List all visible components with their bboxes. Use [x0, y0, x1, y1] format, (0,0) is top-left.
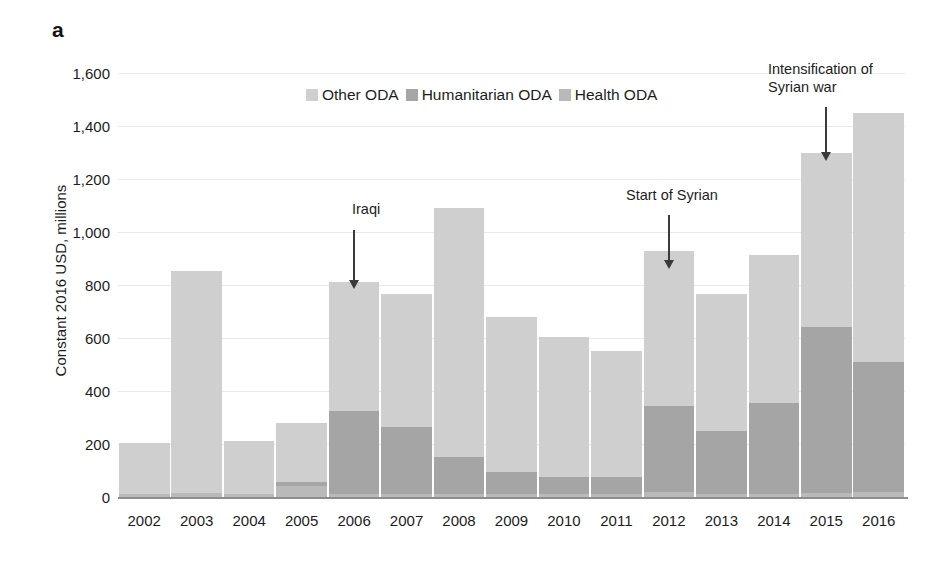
bar-segment-humanitarian-oda [749, 403, 800, 494]
annotation-label-2012: Start of Syrian [626, 186, 718, 204]
bar-2016[interactable] [853, 113, 904, 497]
x-axis-tick-label: 2004 [223, 512, 275, 529]
bar-segment-other-oda [644, 251, 695, 406]
bar-segment-humanitarian-oda [591, 477, 642, 494]
x-axis-tick-label: 2010 [538, 512, 590, 529]
bar-2003[interactable] [171, 271, 222, 497]
bar-segment-other-oda [696, 294, 747, 430]
y-axis-tick-label: 1,000 [40, 224, 110, 241]
legend-item-other-oda[interactable]: Other ODA [306, 86, 399, 104]
chart-legend: Other ODAHumanitarian ODAHealth ODA [306, 86, 657, 104]
y-axis-tick-label: 200 [40, 436, 110, 453]
bar-segment-other-oda [119, 443, 170, 494]
bar-segment-humanitarian-oda [853, 362, 904, 492]
chart-figure: a Constant 2016 USD, millions 1,6001,400… [0, 0, 933, 563]
gridline [118, 232, 905, 233]
bar-2010[interactable] [539, 337, 590, 497]
x-axis-tick-label: 2009 [485, 512, 537, 529]
bar-segment-humanitarian-oda [696, 431, 747, 495]
bar-2004[interactable] [224, 441, 275, 497]
annotation-arrow-shaft-2015 [825, 107, 827, 152]
y-axis-ticks: 1,6001,4001,2001,0008006004002000 [32, 0, 110, 563]
bar-segment-other-oda [539, 337, 590, 477]
bar-segment-other-oda [749, 255, 800, 403]
legend-item-humanitarian-oda[interactable]: Humanitarian ODA [406, 86, 552, 104]
x-axis-tick-label: 2015 [800, 512, 852, 529]
legend-label: Health ODA [575, 86, 658, 104]
x-axis-tick-label: 2005 [275, 512, 327, 529]
legend-item-health-oda[interactable]: Health ODA [559, 86, 658, 104]
bar-2002[interactable] [119, 443, 170, 497]
bar-2011[interactable] [591, 351, 642, 497]
legend-swatch-icon [559, 89, 571, 101]
bar-2005[interactable] [276, 423, 327, 497]
legend-label: Other ODA [322, 86, 399, 104]
bar-segment-humanitarian-oda [329, 411, 380, 494]
bar-segment-humanitarian-oda [486, 472, 537, 495]
annotation-label-2006: Iraqi [352, 200, 380, 218]
bar-segment-humanitarian-oda [276, 482, 327, 486]
legend-swatch-icon [406, 89, 418, 101]
bar-segment-other-oda [801, 153, 852, 328]
x-axis-tick-label: 2002 [118, 512, 170, 529]
annotation-arrow-head-2006 [349, 280, 359, 289]
bar-segment-other-oda [486, 317, 537, 472]
gridline [118, 126, 905, 127]
bar-2009[interactable] [486, 317, 537, 497]
bar-2014[interactable] [749, 255, 800, 497]
annotation-arrow-head-2012 [664, 260, 674, 269]
x-axis-tick-label: 2014 [748, 512, 800, 529]
bar-segment-other-oda [434, 208, 485, 457]
bar-2013[interactable] [696, 294, 747, 497]
x-axis-tick-label: 2008 [433, 512, 485, 529]
bar-2007[interactable] [381, 294, 432, 497]
x-axis-tick-label: 2016 [853, 512, 905, 529]
y-axis-tick-label: 800 [40, 277, 110, 294]
bar-2015[interactable] [801, 153, 852, 498]
x-axis-tick-label: 2013 [695, 512, 747, 529]
y-axis-tick-label: 0 [40, 489, 110, 506]
bar-2012[interactable] [644, 251, 695, 497]
annotation-label-2015: Intensification of Syrian war [768, 60, 873, 96]
bar-2006[interactable] [329, 282, 380, 497]
bar-2008[interactable] [434, 208, 485, 497]
bar-segment-humanitarian-oda [644, 406, 695, 492]
bar-segment-other-oda [224, 441, 275, 494]
bar-segment-humanitarian-oda [801, 327, 852, 493]
annotation-arrow-shaft-2012 [668, 215, 670, 260]
bar-segment-humanitarian-oda [539, 477, 590, 494]
x-axis-tick-label: 2011 [590, 512, 642, 529]
bar-segment-health-oda [276, 486, 327, 497]
bar-segment-humanitarian-oda [434, 457, 485, 494]
x-axis-tick-label: 2012 [643, 512, 695, 529]
y-axis-tick-label: 1,200 [40, 171, 110, 188]
bar-segment-other-oda [276, 423, 327, 483]
bar-segment-other-oda [853, 113, 904, 362]
x-axis-tick-label: 2006 [328, 512, 380, 529]
plot-area [118, 73, 905, 497]
bar-segment-humanitarian-oda [381, 427, 432, 495]
x-axis-tick-label: 2007 [380, 512, 432, 529]
legend-label: Humanitarian ODA [422, 86, 552, 104]
bar-segment-other-oda [591, 351, 642, 477]
annotation-arrow-shaft-2006 [353, 230, 355, 280]
y-axis-tick-label: 600 [40, 330, 110, 347]
legend-swatch-icon [306, 89, 318, 101]
y-axis-tick-label: 400 [40, 383, 110, 400]
y-axis-tick-label: 1,400 [40, 118, 110, 135]
annotation-arrow-head-2015 [821, 152, 831, 161]
x-axis-line [118, 497, 908, 499]
bar-segment-other-oda [171, 271, 222, 493]
bar-segment-other-oda [329, 282, 380, 411]
bar-segment-other-oda [381, 294, 432, 427]
x-axis-tick-label: 2003 [170, 512, 222, 529]
gridline [118, 179, 905, 180]
y-axis-tick-label: 1,600 [40, 65, 110, 82]
